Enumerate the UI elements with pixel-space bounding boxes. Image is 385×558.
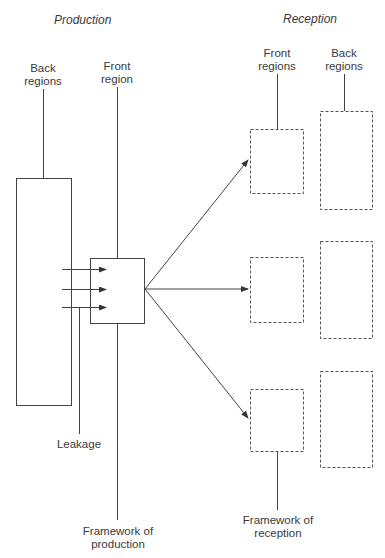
back-region-box: [17, 179, 72, 406]
arrow-to-bottom-reception: [145, 289, 248, 418]
reception-front-box-3: [251, 390, 304, 452]
arrow-to-top-reception: [145, 160, 248, 289]
front-region-box: [91, 259, 145, 324]
reception-back-box-2: [321, 242, 373, 339]
reception-front-box-2: [251, 258, 304, 323]
reception-back-box-1: [321, 112, 373, 210]
reception-back-box-3: [321, 372, 373, 468]
reception-front-box-1: [251, 130, 304, 194]
diagram-canvas: [0, 0, 385, 558]
